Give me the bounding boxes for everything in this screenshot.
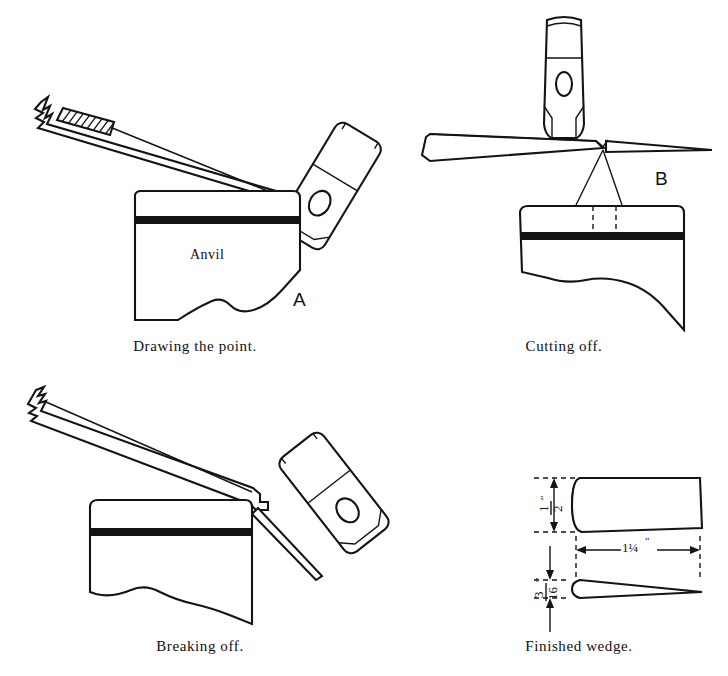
hammer-head-angled xyxy=(276,429,392,557)
hammer-head-vertical xyxy=(544,17,584,138)
dim-thickness-numerator: 3 xyxy=(531,592,546,599)
wedge-top-view xyxy=(572,478,702,532)
dim-half-inch-numerator: 1 xyxy=(536,506,551,513)
anvil-block: Anvil xyxy=(135,191,300,320)
caption-breaking-off: Breaking off. xyxy=(0,638,400,655)
figure-breaking-off xyxy=(0,370,400,660)
dimension-length: 1¼ ″ xyxy=(576,535,700,580)
figure-cutting-off: B xyxy=(400,0,728,360)
dimension-thickness: 3 16 ″ xyxy=(531,546,570,632)
projection-lines xyxy=(576,150,622,205)
anvil-block xyxy=(520,206,684,330)
illustration-plate: Anvil A Drawing the point. xyxy=(0,0,728,676)
caption-finished-wedge: Finished wedge. xyxy=(430,638,728,655)
dim-length-mark: ″ xyxy=(645,535,650,547)
dim-half-inch-mark: ″ xyxy=(538,495,550,500)
dim-thickness-denominator: 16 xyxy=(545,587,560,601)
anvil-label: Anvil xyxy=(190,247,224,262)
iron-bar xyxy=(35,97,300,205)
letter-label-a: A xyxy=(293,289,306,310)
dim-thickness-mark: ″ xyxy=(533,577,545,582)
figure-drawing-the-point: Anvil A xyxy=(0,58,390,358)
dim-half-inch-denominator: 2 xyxy=(550,506,565,513)
figure-finished-wedge: 1 2 ″ 1¼ ″ xyxy=(430,440,728,670)
caption-drawing-the-point: Drawing the point. xyxy=(0,338,390,355)
letter-label-b: B xyxy=(655,168,668,189)
caption-cutting-off: Cutting off. xyxy=(400,338,728,355)
wedge-side-view xyxy=(572,580,702,598)
dim-length-value: 1¼ xyxy=(622,540,639,555)
anvil-block xyxy=(90,500,252,624)
